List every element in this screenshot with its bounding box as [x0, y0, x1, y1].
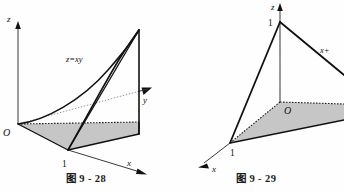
x-axis-label: x	[211, 164, 216, 174]
surface-curve-outer	[18, 30, 139, 124]
figure-9-28-drawing: z y x O 1 z=xy	[0, 0, 172, 193]
plane-equation-label: x+	[319, 45, 330, 55]
figure-9-29-drawing: z 1 O 1 x x+	[172, 0, 344, 193]
x-axis-arrowhead	[198, 164, 209, 169]
surface-equation-label: z=xy	[65, 54, 83, 64]
z-axis-tick-1: 1	[268, 18, 273, 28]
z-axis-label: z	[6, 14, 11, 24]
origin-label: O	[3, 127, 10, 138]
y-axis-arrowhead	[142, 88, 153, 96]
edge-apex-to-y1	[280, 22, 344, 75]
x-axis-line	[204, 143, 230, 163]
z-axis-arrowhead	[15, 21, 21, 29]
figure-9-28-caption: 图 9 - 28	[0, 170, 172, 185]
x-axis-tick-1: 1	[230, 148, 235, 158]
x-axis-tick-1: 1	[62, 159, 67, 169]
figure-sheet: z y x O 1 z=xy 图 9 - 28	[0, 0, 344, 193]
x-axis-label: x	[126, 158, 131, 168]
figure-9-29: z 1 O 1 x x+ 图 9 - 29	[172, 0, 344, 193]
z-axis-arrowhead	[277, 3, 283, 11]
figure-9-28: z y x O 1 z=xy 图 9 - 28	[0, 0, 172, 193]
origin-label: O	[284, 105, 291, 116]
figure-9-29-caption: 图 9 - 29	[236, 170, 276, 185]
z-axis-label: z	[270, 2, 275, 12]
y-axis-label: y	[142, 95, 147, 105]
shaded-base-region	[18, 122, 139, 150]
